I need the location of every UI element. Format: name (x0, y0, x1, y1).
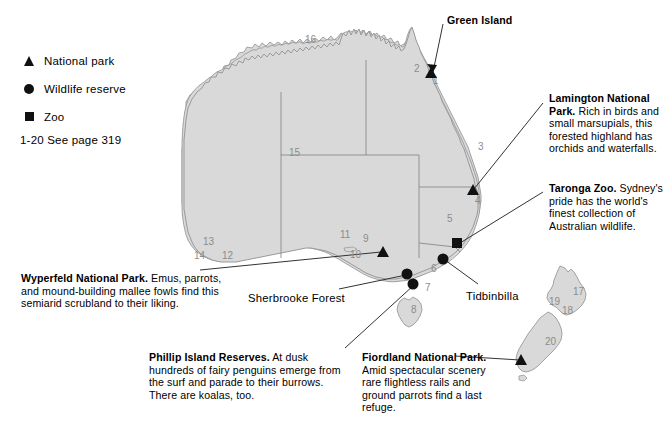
square-marker-icon (20, 112, 38, 121)
map-number-2: 2 (414, 63, 420, 74)
callout-title-phillip-island: Phillip Island Reserves. (149, 351, 270, 363)
taronga-zoo-marker (452, 238, 462, 248)
map-number-8: 8 (411, 304, 417, 315)
phillip-island-marker (408, 279, 419, 290)
callout-title-fiordland: Fiordland National Park. (362, 351, 486, 363)
leader-lamington (474, 103, 543, 189)
map-number-12: 12 (222, 250, 234, 261)
callout-phillip-island: Phillip Island Reserves. At dusk hundred… (149, 351, 354, 401)
stewart-island-shape (519, 375, 527, 381)
callout-title-green-island: Green Island (447, 14, 512, 26)
leader-tidbinbilla (445, 260, 478, 284)
callout-wyperfeld: Wyperfeld National Park. Emus, parrots, … (21, 272, 236, 310)
legend-item-wildlife-reserve: Wildlife reserve (20, 78, 126, 99)
callout-fiordland: Fiordland National Park. Amid spectacula… (362, 351, 487, 414)
map-number-14: 14 (194, 250, 206, 261)
map-figure: 1234567891011121314151617181920 National… (0, 0, 672, 423)
map-number-19: 19 (549, 296, 561, 307)
map-number-6: 6 (431, 263, 437, 274)
tasmania-shape (397, 297, 422, 327)
sherbrooke-forest-marker (402, 269, 413, 280)
legend-item-zoo: Zoo (20, 106, 126, 127)
callout-lamington: Lamington National Park. Rich in birds a… (549, 92, 669, 155)
map-number-9: 9 (363, 233, 369, 244)
triangle-marker-icon (20, 56, 38, 66)
tidbinbilla-marker (438, 254, 449, 265)
callout-title-wyperfeld: Wyperfeld National Park. (21, 272, 148, 284)
callout-taronga: Taronga Zoo. Sydney's pride has the worl… (549, 182, 669, 232)
legend-label-national-park: National park (44, 55, 114, 67)
new-zealand-landmass (516, 266, 586, 381)
circle-marker-icon (20, 84, 38, 94)
legend-item-national-park: National park (20, 50, 126, 71)
map-number-11: 11 (340, 229, 351, 240)
legend-label-zoo: Zoo (44, 111, 64, 123)
legend-label-wildlife-reserve: Wildlife reserve (44, 83, 126, 95)
map-number-5: 5 (447, 213, 453, 224)
callout-title-taronga: Taronga Zoo. (549, 182, 617, 194)
map-number-10: 10 (350, 249, 362, 260)
map-number-7: 7 (425, 282, 431, 293)
map-number-15: 15 (289, 147, 301, 158)
map-number-13: 13 (203, 236, 215, 247)
map-number-18: 18 (562, 305, 574, 316)
callout-body-fiordland: Amid spectacular scenery rare flightless… (362, 364, 486, 414)
label-tidbinbilla: Tidbinbilla (466, 290, 519, 302)
legend-page-note: 1-20 See page 319 (20, 134, 126, 146)
map-number-17: 17 (573, 286, 585, 297)
legend: National park Wildlife reserve Zoo 1-20 … (20, 50, 126, 146)
map-number-20: 20 (545, 336, 557, 347)
label-sherbrooke-forest: Sherbrooke Forest (248, 292, 345, 304)
map-number-3: 3 (478, 141, 484, 152)
callout-green-island: Green Island (447, 14, 557, 27)
map-number-4: 4 (475, 195, 481, 206)
map-number-16: 16 (305, 34, 317, 45)
